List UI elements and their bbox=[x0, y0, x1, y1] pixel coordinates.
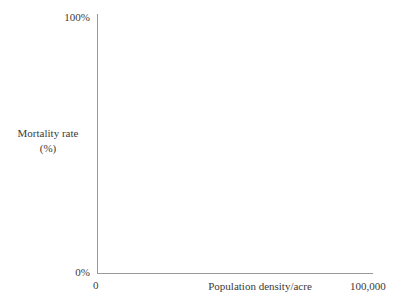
y-axis-title: Mortality rate (%) bbox=[6, 126, 90, 156]
x-axis-line bbox=[97, 273, 373, 274]
y-axis-tick-label-bottom: 0% bbox=[75, 266, 90, 279]
x-axis-tick-label-right: 100,000 bbox=[350, 280, 386, 293]
y-axis-title-line-1: Mortality rate bbox=[18, 127, 79, 139]
y-axis-tick-label-top: 100% bbox=[64, 11, 90, 24]
y-axis-title-line-2: (%) bbox=[6, 141, 90, 156]
plot-area bbox=[98, 14, 373, 273]
chart-figure: 100% 0% 0 100,000 Mortality rate (%) Pop… bbox=[0, 0, 409, 308]
x-axis-title: Population density/acre bbox=[180, 280, 340, 293]
x-axis-tick-label-left: 0 bbox=[93, 279, 99, 292]
